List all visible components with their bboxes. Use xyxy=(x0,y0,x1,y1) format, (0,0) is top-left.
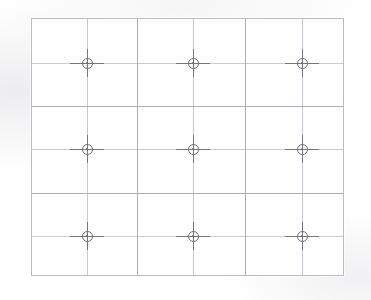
crosshair-center-dot-icon xyxy=(301,235,303,237)
crosshair-center-dot-icon xyxy=(301,62,303,64)
crosshair-center-dot-icon xyxy=(86,62,88,64)
marker-r2-c3 xyxy=(302,149,303,150)
marker-r3-c3 xyxy=(302,236,303,237)
marker-r2-c1 xyxy=(87,149,88,150)
crosshair-center-dot-icon xyxy=(301,148,303,150)
crosshair-center-dot-icon xyxy=(192,62,194,64)
crosshair-center-dot-icon xyxy=(192,235,194,237)
grid-division-vline-1 xyxy=(137,19,138,275)
crosshair-center-dot-icon xyxy=(86,148,88,150)
marker-r2-c2 xyxy=(193,149,194,150)
image-canvas xyxy=(0,0,371,300)
grid-division-hline-2 xyxy=(32,193,343,194)
marker-r1-c3 xyxy=(302,63,303,64)
marker-r1-c1 xyxy=(87,63,88,64)
marker-r3-c2 xyxy=(193,236,194,237)
crosshair-center-dot-icon xyxy=(192,148,194,150)
crosshair-center-dot-icon xyxy=(86,235,88,237)
marker-r1-c2 xyxy=(193,63,194,64)
marker-r3-c1 xyxy=(87,236,88,237)
grid-division-hline-1 xyxy=(32,106,343,107)
calibration-target-frame xyxy=(31,18,344,276)
grid-division-vline-2 xyxy=(245,19,246,275)
